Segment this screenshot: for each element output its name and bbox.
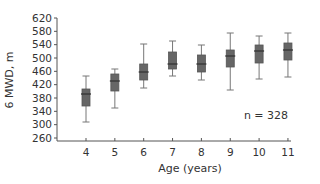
x-tick-label: 4 [83, 146, 90, 158]
y-tick-label: 260 [32, 132, 52, 144]
box-age-9 [225, 33, 235, 90]
y-tick-label: 500 [32, 52, 52, 64]
iqr-box [169, 52, 177, 69]
iqr-box [284, 43, 292, 60]
y-tick-label: 540 [32, 38, 52, 50]
x-tick-label: 9 [227, 146, 234, 158]
y-axis-title: 6 MWD, m [3, 51, 16, 108]
y-axis: 260300340380420460500540580620 [32, 12, 57, 144]
box-plot-chart: 260300340380420460500540580620 456789101… [0, 0, 320, 184]
box-age-8 [196, 45, 206, 80]
x-axis: 4567891011 [57, 138, 295, 158]
box-age-5 [110, 69, 120, 108]
sample-size-annotation: n = 328 [244, 109, 288, 122]
box-age-11 [283, 33, 293, 77]
iqr-box [111, 74, 119, 91]
y-tick-label: 300 [32, 118, 52, 130]
y-tick-label: 420 [32, 78, 52, 90]
box-age-10 [254, 36, 264, 79]
y-tick-label: 620 [32, 12, 52, 24]
iqr-box [226, 50, 234, 67]
x-tick-label: 5 [112, 146, 119, 158]
x-tick-label: 11 [281, 146, 294, 158]
y-tick-label: 340 [32, 105, 52, 117]
x-tick-label: 8 [198, 146, 205, 158]
x-axis-title: Age (years) [158, 162, 222, 175]
y-tick-label: 580 [32, 25, 52, 37]
iqr-box [82, 89, 90, 106]
x-tick-label: 7 [169, 146, 176, 158]
box-age-4 [81, 76, 91, 122]
x-tick-label: 6 [140, 146, 147, 158]
y-tick-label: 460 [32, 65, 52, 77]
x-tick-label: 10 [252, 146, 265, 158]
y-tick-label: 380 [32, 92, 52, 104]
box-age-6 [139, 44, 149, 88]
box-age-7 [168, 41, 178, 76]
iqr-box [255, 45, 263, 63]
